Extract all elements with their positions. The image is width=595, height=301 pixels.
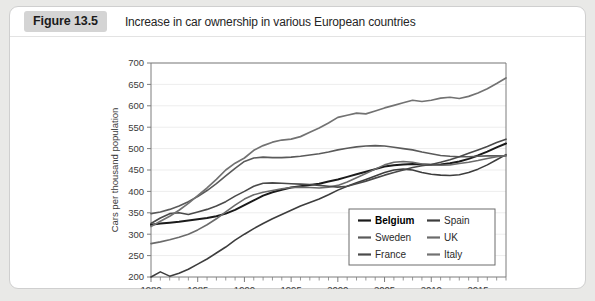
- chart-plot-area: 200250300350400450500550600650700 198019…: [10, 37, 585, 289]
- line-chart: 200250300350400450500550600650700 198019…: [10, 37, 587, 289]
- legend-label-france[interactable]: France: [375, 249, 407, 260]
- legend-label-italy[interactable]: Italy: [444, 249, 462, 260]
- x-axis-tick-label: 1995: [281, 284, 302, 289]
- y-axis-tick-label: 350: [128, 207, 144, 218]
- x-axis-ticks: 19801985199019952000200520102015: [140, 277, 506, 289]
- y-axis-tick-label: 300: [128, 229, 144, 240]
- figure-number-badge: Figure 13.5: [24, 11, 107, 32]
- legend-label-belgium[interactable]: Belgium: [375, 215, 415, 226]
- y-axis-tick-label: 650: [128, 79, 144, 90]
- figure-header: Figure 13.5 Increase in car ownership in…: [10, 7, 585, 37]
- figure-caption: Increase in car ownership in various Eur…: [125, 15, 416, 29]
- y-axis-title: Cars per thousand population: [109, 108, 120, 233]
- y-axis-tick-label: 500: [128, 143, 144, 154]
- x-axis-tick-label: 2015: [467, 284, 488, 289]
- y-axis-tick-label: 250: [128, 250, 144, 261]
- y-axis-tick-label: 550: [128, 122, 144, 133]
- x-axis-tick-label: 2000: [327, 284, 348, 289]
- y-axis-tick-label: 450: [128, 164, 144, 175]
- x-axis-tick-label: 1985: [187, 284, 208, 289]
- y-axis-tick-label: 400: [128, 186, 144, 197]
- x-axis-tick-label: 2010: [421, 284, 442, 289]
- chart-legend: BelgiumSpainSwedenUKFranceItaly: [349, 209, 495, 265]
- y-axis-tick-label: 700: [128, 57, 144, 68]
- y-axis-tick-label: 600: [128, 100, 144, 111]
- series-line-sweden: [151, 146, 506, 214]
- legend-label-sweden[interactable]: Sweden: [375, 232, 411, 243]
- legend-label-uk[interactable]: UK: [444, 232, 458, 243]
- y-axis-tick-label: 200: [128, 271, 144, 282]
- x-axis-tick-label: 1980: [140, 284, 161, 289]
- figure-card: Figure 13.5 Increase in car ownership in…: [9, 6, 586, 289]
- x-axis-tick-label: 2005: [374, 284, 395, 289]
- x-axis-tick-label: 1990: [234, 284, 255, 289]
- y-axis-ticks: 200250300350400450500550600650700: [128, 57, 151, 282]
- legend-label-spain[interactable]: Spain: [444, 215, 470, 226]
